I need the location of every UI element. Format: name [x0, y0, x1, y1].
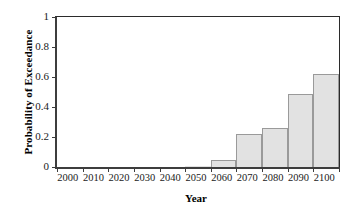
bar-2090: [288, 94, 314, 168]
bar-2100: [313, 74, 339, 167]
x-tick-label-2100: 2100: [307, 172, 341, 183]
y-axis-title: Probability of Exceedance: [22, 12, 34, 172]
bar-2070: [236, 134, 262, 167]
chart-figure: Probability of Exceedance 00.20.40.60.81…: [0, 0, 356, 212]
bar-2080: [262, 128, 288, 167]
y-tick-0.2: 0.2: [52, 137, 57, 138]
y-tick-label-0.2: 0.2: [35, 130, 49, 142]
y-tick-label-0: 0: [44, 160, 50, 172]
y-tick-label-0.8: 0.8: [35, 40, 49, 52]
y-tick-0.4: 0.4: [52, 107, 57, 108]
y-tick-label-0.4: 0.4: [35, 100, 49, 112]
bar-2060: [211, 160, 237, 168]
bar-2050: [185, 166, 211, 167]
y-tick-label-0.6: 0.6: [35, 70, 49, 82]
y-tick-1: 1: [52, 17, 57, 18]
bars-layer: [57, 17, 339, 167]
y-tick-0.8: 0.8: [52, 47, 57, 48]
y-tick-0.6: 0.6: [52, 77, 57, 78]
plot-area: 00.20.40.60.81: [55, 16, 340, 169]
x-axis-title: Year: [55, 192, 337, 204]
y-tick-label-1: 1: [44, 10, 50, 22]
